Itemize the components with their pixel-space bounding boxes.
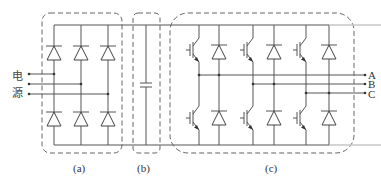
rectifier-section: 电 源 (a) <box>12 13 381 175</box>
rectifier-diode-icon <box>100 46 116 60</box>
inverter-boundary <box>170 13 354 153</box>
rectifier-diode-icon <box>73 46 89 60</box>
freewheel-diode-icon <box>321 111 337 125</box>
rectifier-diode-icon <box>46 46 62 60</box>
igbt-icon <box>186 38 199 62</box>
freewheel-diode-icon <box>266 45 282 59</box>
output-label-c: C <box>368 88 375 100</box>
freewheel-diode-icon <box>321 45 337 59</box>
rectifier-diode-icon <box>100 112 116 126</box>
igbt-icon <box>293 106 306 130</box>
rectifier-diode-icon <box>46 112 62 126</box>
section-b-label: (b) <box>137 162 150 175</box>
power-source-label-1: 电 <box>12 70 23 83</box>
section-c-label: (c) <box>265 162 278 175</box>
converter-circuit-diagram: 电 源 (a) (b) <box>0 0 381 185</box>
freewheel-diode-icon <box>266 111 282 125</box>
freewheel-diode-icon <box>211 45 227 59</box>
inverter-section: A B C (c) <box>170 13 381 175</box>
rectifier-diode-icon <box>73 112 89 126</box>
freewheel-diode-icon <box>211 111 227 125</box>
igbt-icon <box>186 106 199 130</box>
section-a-label: (a) <box>73 162 86 175</box>
igbt-icon <box>240 106 253 130</box>
igbt-icon <box>293 38 306 62</box>
igbt-icon <box>240 38 253 62</box>
power-source-label-2: 源 <box>12 86 23 100</box>
dc-link-section: (b) <box>133 13 160 175</box>
